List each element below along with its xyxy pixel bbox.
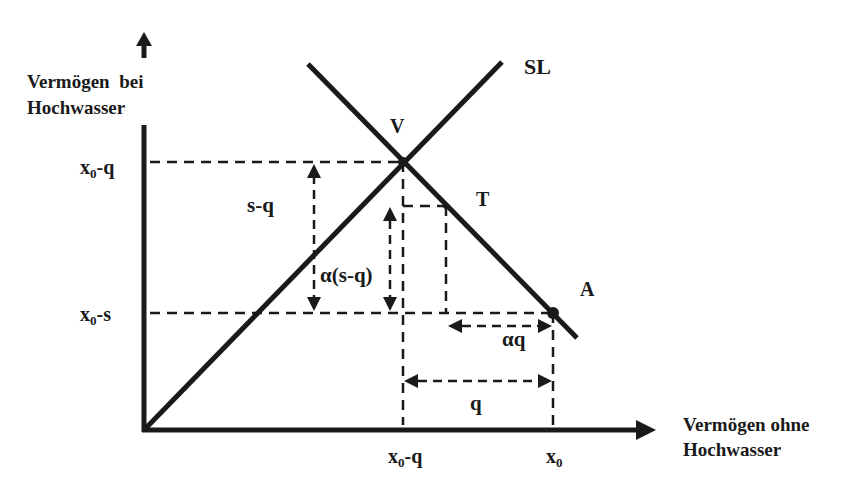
arrowhead-down-icon — [307, 297, 321, 311]
point-t — [443, 203, 449, 209]
arrowhead-right-icon — [538, 374, 552, 388]
annotation-alpha-q: αq — [502, 327, 526, 351]
point-v — [398, 157, 408, 167]
arrowhead-left-icon — [448, 319, 462, 333]
diagram-canvas: Vermögen bei Hochwasser Vermögen ohne Ho… — [0, 0, 867, 497]
y-tick-x0-s: x0-s — [80, 303, 111, 328]
arrowhead-up-icon — [307, 164, 321, 178]
x-axis — [142, 420, 656, 440]
y-tick-x0-q: x0-q — [80, 156, 114, 181]
x-axis-label-line1: Vermögen ohne — [683, 414, 810, 435]
arrowhead-down-icon — [383, 297, 397, 311]
x-tick-x0: x0 — [546, 445, 563, 470]
annotation-q: q — [470, 391, 482, 415]
arrowhead-right-icon — [538, 319, 552, 333]
y-axis-arrow-icon — [136, 32, 152, 58]
y-axis-label-line1: Vermögen bei — [27, 71, 143, 92]
arrowhead-up-icon — [383, 207, 397, 221]
point-t-label: T — [476, 188, 490, 210]
sl-line — [144, 62, 502, 430]
sl-label: SL — [524, 54, 551, 79]
point-a-label: A — [580, 278, 595, 300]
annotation-alpha-s-minus-q: α(s-q) — [320, 263, 373, 287]
point-a — [547, 307, 559, 319]
annotation-s-minus-q: s-q — [247, 193, 274, 217]
x-axis-label-line2: Hochwasser — [683, 439, 782, 460]
opportunity-line — [308, 64, 577, 338]
point-v-label: V — [390, 115, 405, 137]
x-axis-arrow-icon — [636, 420, 656, 440]
x-tick-x0-q: x0-q — [388, 445, 422, 470]
arrowhead-left-icon — [404, 374, 418, 388]
y-axis-label-line2: Hochwasser — [27, 97, 126, 118]
